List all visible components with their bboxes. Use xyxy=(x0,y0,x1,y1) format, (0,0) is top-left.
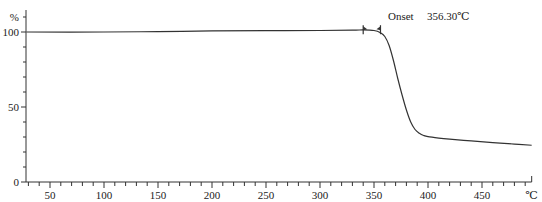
x-tick-label: 450 xyxy=(474,189,491,201)
x-tick-label: 400 xyxy=(420,189,437,201)
onset-value: 356.30℃ xyxy=(427,10,470,22)
x-tick-label: 300 xyxy=(312,189,329,201)
y-tick-label: 100 xyxy=(3,26,20,38)
y-tick-label: 50 xyxy=(8,101,20,113)
axes: 050100%50100150200250300350400450℃ xyxy=(3,10,538,201)
data-series xyxy=(26,25,531,145)
x-tick-label: 200 xyxy=(204,189,221,201)
y-tick-label: 0 xyxy=(14,176,20,188)
onset-label: Onset xyxy=(388,10,414,22)
x-unit-label: ℃ xyxy=(526,189,538,201)
weight-curve xyxy=(26,30,531,145)
y-unit-label: % xyxy=(10,11,19,23)
x-tick-label: 350 xyxy=(366,189,383,201)
x-tick-label: 150 xyxy=(150,189,167,201)
tga-chart: 050100%50100150200250300350400450℃ Onset… xyxy=(0,0,542,202)
x-tick-label: 50 xyxy=(45,189,57,201)
x-tick-label: 100 xyxy=(96,189,113,201)
x-tick-label: 250 xyxy=(258,189,275,201)
